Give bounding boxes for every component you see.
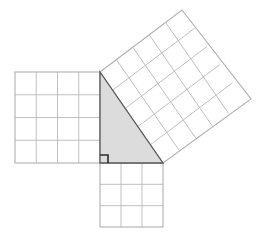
square-on-vertical-leg <box>15 72 100 163</box>
square-on-horizontal-leg <box>100 163 163 227</box>
figure-canvas <box>0 0 262 242</box>
pythagorean-figure: Pythagorean theorem square diagram a^2 +… <box>0 0 262 242</box>
bottom-square-outline <box>100 163 163 227</box>
